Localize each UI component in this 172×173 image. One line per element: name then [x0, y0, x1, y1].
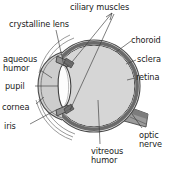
- eye-anatomy-diagram: ciliary muscles crystalline lens aqueous…: [0, 0, 172, 173]
- label-aqueous-humor: aqueous humor: [3, 55, 37, 74]
- label-optic-nerve-line2: nerve: [139, 140, 162, 149]
- leader-iris: [30, 110, 56, 124]
- label-crystalline-lens: crystalline lens: [9, 20, 69, 29]
- label-choroid: choroid: [131, 36, 161, 45]
- label-pupil: pupil: [5, 82, 25, 91]
- label-cornea: cornea: [2, 103, 29, 112]
- label-vitreous-humor: vitreous humor: [91, 147, 123, 166]
- label-optic-nerve: optic nerve: [139, 131, 162, 150]
- label-vitreous-humor-line2: humor: [91, 156, 123, 165]
- label-sclera: sclera: [137, 55, 161, 64]
- label-ciliary-muscles: ciliary muscles: [70, 3, 129, 12]
- label-iris: iris: [4, 122, 16, 131]
- label-aqueous-humor-line2: humor: [3, 64, 37, 73]
- label-retina: retina: [136, 73, 159, 82]
